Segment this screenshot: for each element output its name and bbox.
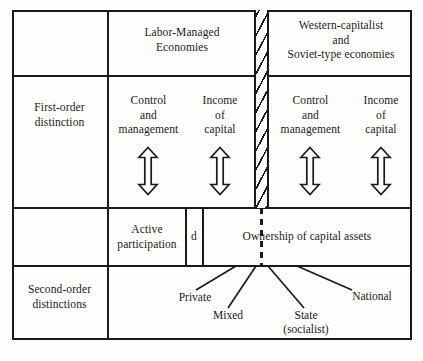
leaf-label-private: Private (160, 290, 230, 304)
left-income-arrow (209, 146, 231, 196)
column-heading-labor-managed-economies: Labor-Managed Economies (110, 25, 254, 54)
cell-right-income-of-capital: Income of capital (351, 93, 411, 137)
rule-under-ownership-strip (12, 265, 412, 267)
right-income-arrow (370, 146, 392, 196)
leaf-label-national: National (337, 289, 407, 303)
cell-ownership-of-capital-assets: Ownership of capital assets (203, 229, 411, 244)
left-control-arrow (137, 146, 159, 196)
row-label-second-order-distinctions: Second-order distinctions (12, 282, 107, 311)
cell-active-participation: Active participation (109, 222, 185, 251)
leaf-label-state-socialist: State (socialist) (274, 308, 338, 337)
cell-right-control-and-management: Control and management (273, 93, 348, 137)
cell-left-control-and-management: Control and management (111, 93, 186, 137)
column-heading-western-capitalist-soviet-type: Western-capitalist and Soviet-type econo… (271, 18, 411, 62)
row-label-first-order-distinction: First-order distinction (12, 100, 107, 129)
diagram-root: First-order distinction Second-order dis… (0, 0, 423, 361)
hatched-separator-band (254, 10, 269, 208)
leaf-label-mixed: Mixed (197, 308, 259, 322)
rule-above-ownership-strip (12, 207, 412, 209)
cell-left-income-of-capital: Income of capital (189, 93, 251, 137)
rule-left-label-column (107, 10, 109, 340)
rule-under-column-headings (12, 75, 412, 77)
right-control-arrow (299, 146, 321, 196)
cell-divider-letter-d: d (186, 229, 202, 244)
